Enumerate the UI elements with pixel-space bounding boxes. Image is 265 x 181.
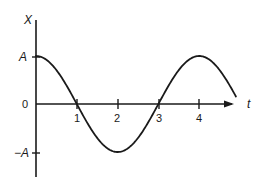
t-axis-label: t <box>247 97 251 111</box>
y-axis-label: X <box>23 13 33 27</box>
tick-label-2: 2 <box>114 112 120 124</box>
tick-label-4: 4 <box>196 112 202 124</box>
tick-label-1: 1 <box>74 112 80 124</box>
displacement-time-graph: X t 0 A −A 1 2 3 4 <box>0 0 265 181</box>
origin-label: 0 <box>22 98 28 110</box>
t-axis-arrowhead-icon <box>224 101 234 108</box>
amplitude-pos-label: A <box>18 50 27 64</box>
amplitude-neg-label: −A <box>14 146 29 160</box>
tick-label-3: 3 <box>156 112 162 124</box>
